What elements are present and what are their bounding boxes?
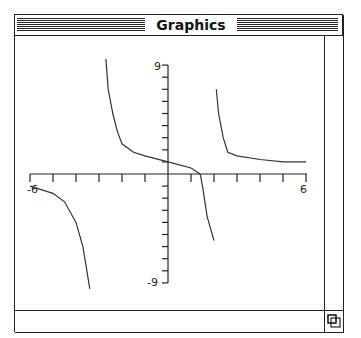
- curve-branch-2: [106, 59, 200, 174]
- resize-icon: [325, 311, 343, 332]
- graph-area: -6 6 9 -9: [15, 36, 324, 310]
- x-max-label: 6: [300, 183, 307, 196]
- graphics-window: Graphics -6 6 9 -9: [14, 14, 343, 332]
- curve-branch-4: [216, 89, 306, 162]
- vertical-scrollbar[interactable]: [324, 36, 343, 310]
- function-plot: -6 6 9 -9: [15, 36, 324, 310]
- x-min-label: -6: [27, 183, 38, 196]
- y-min-label: -9: [147, 276, 158, 289]
- curve-branch-3: [200, 174, 214, 241]
- window-title: Graphics: [149, 16, 233, 34]
- horizontal-scrollbar[interactable]: [15, 310, 324, 332]
- title-bar-stripes-right: [237, 18, 338, 31]
- title-bar-stripes-left: [17, 18, 145, 31]
- title-bar[interactable]: Graphics: [15, 15, 342, 36]
- y-max-label: 9: [154, 60, 161, 73]
- curve-branch-1: [30, 186, 90, 289]
- grow-box[interactable]: [324, 310, 343, 332]
